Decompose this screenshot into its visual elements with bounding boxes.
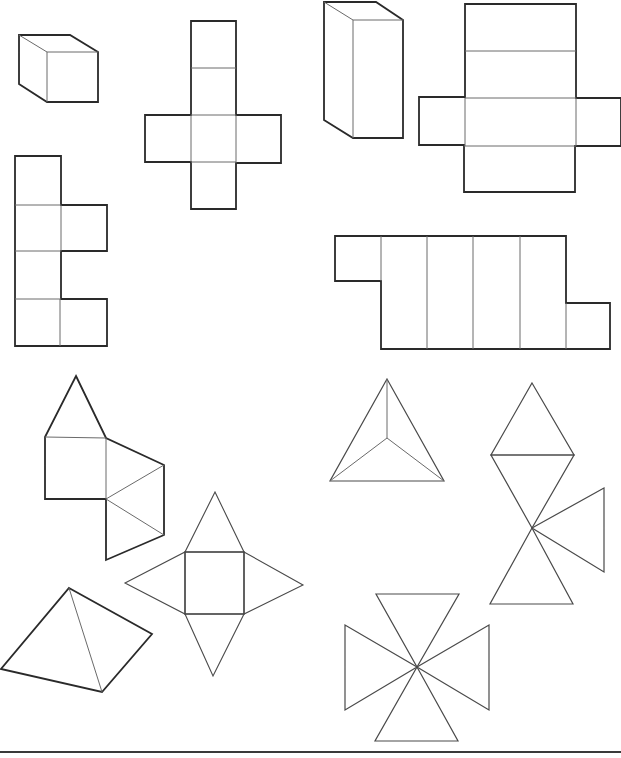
cuboid-net xyxy=(419,4,621,192)
worksheet-canvas: Solids and their nets worksheet xyxy=(0,0,621,758)
cube-net-cross xyxy=(145,21,281,209)
strip-net xyxy=(335,236,610,349)
cube-solid xyxy=(19,35,98,102)
house-net xyxy=(45,376,164,560)
tetrahedron-solid xyxy=(330,379,444,481)
square-pyramid-net xyxy=(125,492,303,676)
pinwheel-net xyxy=(345,594,489,741)
cube-net-zigzag xyxy=(15,156,107,346)
bowtie-net xyxy=(490,383,604,604)
diagram-svg xyxy=(0,0,621,758)
pyramid-solid xyxy=(1,588,152,692)
cuboid-solid xyxy=(324,2,403,138)
